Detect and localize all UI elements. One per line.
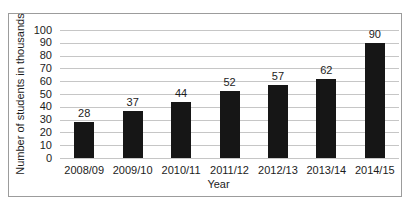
bar: [316, 79, 336, 158]
y-tick-label: 40: [9, 100, 52, 113]
x-tick-label: 2011/12: [206, 164, 254, 177]
bar: [123, 111, 143, 158]
x-tick-label: 2014/15: [351, 164, 399, 177]
gridline: [60, 68, 399, 69]
x-tick-label: 2012/13: [254, 164, 302, 177]
gridline: [60, 43, 399, 44]
gridline: [60, 158, 399, 159]
gridline: [60, 56, 399, 57]
bar-value-label: 52: [210, 76, 250, 88]
y-tick-label: 80: [9, 49, 52, 62]
bar-chart: Number of students in thousands 10090807…: [0, 0, 415, 208]
x-axis-title: Year: [49, 178, 388, 190]
y-tick-label: 10: [9, 139, 52, 152]
bar: [171, 102, 191, 158]
plot-area: 28374452576290: [60, 30, 399, 158]
y-tick-label: 30: [9, 113, 52, 126]
y-tick-label: 0: [9, 152, 52, 165]
y-tick-label: 60: [9, 75, 52, 88]
y-tick-label: 70: [9, 62, 52, 75]
chart-frame: Number of students in thousands 10090807…: [8, 13, 402, 197]
x-tick-label: 2010/11: [157, 164, 205, 177]
y-tick-label: 20: [9, 126, 52, 139]
bar-value-label: 90: [355, 28, 395, 40]
bar-value-label: 57: [258, 70, 298, 82]
bar-value-label: 44: [161, 87, 201, 99]
bar: [220, 91, 240, 158]
y-tick-label: 90: [9, 36, 52, 49]
y-tick-label: 50: [9, 88, 52, 101]
bar-value-label: 28: [64, 107, 104, 119]
gridline: [60, 30, 399, 31]
bar: [268, 85, 288, 158]
x-tick-label: 2008/09: [60, 164, 108, 177]
bar-value-label: 62: [306, 64, 346, 76]
y-tick-label: 100: [9, 24, 52, 37]
bar: [74, 122, 94, 158]
x-tick-label: 2013/14: [302, 164, 350, 177]
bar-value-label: 37: [113, 96, 153, 108]
bar: [365, 43, 385, 158]
x-tick-label: 2009/10: [109, 164, 157, 177]
